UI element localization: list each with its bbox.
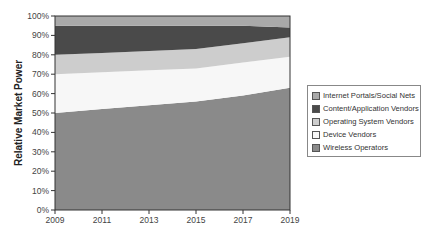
x-axis: 200920112013201520172019 — [46, 210, 300, 225]
y-tick-label: 90% — [32, 30, 49, 40]
legend-swatch-icon — [312, 105, 320, 113]
y-tick-label: 0% — [37, 205, 50, 215]
y-tick-label: 40% — [32, 127, 49, 137]
legend-item-device-vendors: Device Vendors — [312, 128, 416, 141]
y-tick-label: 10% — [32, 186, 49, 196]
legend-swatch-icon — [312, 118, 320, 126]
legend-label: Wireless Operators — [323, 143, 388, 152]
x-tick-label: 2015 — [187, 215, 206, 225]
x-tick-label: 2019 — [281, 215, 300, 225]
y-tick-label: 50% — [32, 108, 49, 118]
y-tick-label: 20% — [32, 166, 49, 176]
x-tick-label: 2009 — [46, 215, 65, 225]
x-tick-label: 2011 — [93, 215, 112, 225]
y-tick-label: 30% — [32, 147, 49, 157]
y-tick-label: 100% — [27, 11, 49, 21]
x-tick-label: 2017 — [234, 215, 253, 225]
y-axis: 0%10%20%30%40%50%60%70%80%90%100% — [27, 11, 55, 215]
legend-item-content-application: Content/Application Vendors — [312, 102, 416, 115]
legend-label: Content/Application Vendors — [323, 104, 419, 113]
legend-swatch-icon — [312, 131, 320, 139]
legend-swatch-icon — [312, 144, 320, 152]
legend-item-internet-portals: Internet Portals/Social Nets — [312, 89, 416, 102]
legend-item-operating-system: Operating System Vendors — [312, 115, 416, 128]
plot-areas — [55, 16, 290, 210]
legend: Internet Portals/Social Nets Content/App… — [307, 85, 421, 157]
y-tick-label: 80% — [32, 50, 49, 60]
y-tick-label: 70% — [32, 69, 49, 79]
legend-label: Internet Portals/Social Nets — [323, 91, 415, 100]
legend-item-wireless-operators: Wireless Operators — [312, 141, 416, 154]
y-tick-label: 60% — [32, 89, 49, 99]
x-tick-label: 2013 — [140, 215, 159, 225]
y-axis-title: Relative Market Power — [13, 60, 24, 166]
legend-swatch-icon — [312, 92, 320, 100]
legend-label: Device Vendors — [323, 130, 376, 139]
legend-label: Operating System Vendors — [323, 117, 414, 126]
